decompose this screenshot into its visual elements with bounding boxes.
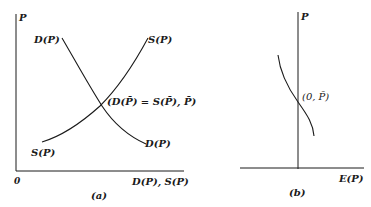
supply-label-top: S(P) xyxy=(148,35,172,45)
supply-label-bottom: S(P) xyxy=(31,148,55,158)
panel-b-caption: (b) xyxy=(289,188,305,198)
demand-label-bottom: D(P) xyxy=(145,139,171,149)
demand-curve xyxy=(62,38,146,144)
panel-b-y-axis-label: P xyxy=(301,12,309,22)
demand-label-top: D(P) xyxy=(34,35,60,45)
panel-a-caption: (a) xyxy=(91,191,107,201)
origin-label: 0 xyxy=(14,177,20,186)
panel-b-x-axis-label: E(P) xyxy=(339,174,364,184)
supply-curve xyxy=(42,38,148,142)
panel-a-y-axis-label: P xyxy=(19,13,27,23)
equilibrium-label: (D(P̄) = S(P̄), P̄) xyxy=(107,97,196,107)
panel-a-x-axis-label: D(P), S(P) xyxy=(132,177,189,187)
panel-b-equilibrium-label: (0, P̄) xyxy=(302,92,329,102)
